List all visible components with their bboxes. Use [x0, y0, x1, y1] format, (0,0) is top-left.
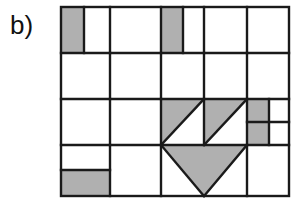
figure-panel: b) [0, 0, 294, 208]
grid-figure [0, 0, 294, 208]
shaded-cell-r1c3-left-strip [161, 7, 183, 53]
shaded-cell-r1c1-left-strip [61, 7, 84, 53]
shaded-cell-r5c1-block [61, 170, 110, 196]
